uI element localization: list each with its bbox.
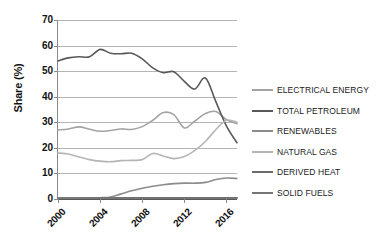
legend-item[interactable]: ELECTRICAL ENERGY xyxy=(252,80,377,101)
legend-label: NATURAL GAS xyxy=(277,147,337,157)
x-tick-label: 2016 xyxy=(210,206,236,232)
legend-label: ELECTRICAL ENERGY xyxy=(277,85,369,95)
legend-color-swatch xyxy=(252,171,273,173)
y-tick-label: 60 xyxy=(42,41,53,51)
y-tick-label: 50 xyxy=(42,66,53,76)
x-tick-mark xyxy=(184,199,185,203)
legend-color-swatch xyxy=(252,89,273,91)
y-tick-label: 0 xyxy=(47,194,53,204)
legend-item[interactable]: SOLID FUELS xyxy=(252,183,377,204)
chart-legend: ELECTRICAL ENERGYTOTAL PETROLEUMRENEWABL… xyxy=(252,80,377,203)
legend-item[interactable]: DERIVED HEAT xyxy=(252,162,377,183)
x-tick-label: 2012 xyxy=(168,206,194,232)
x-tick-mark xyxy=(142,199,143,203)
x-tick-label: 2004 xyxy=(84,206,110,232)
x-tick-label: 2000 xyxy=(42,206,68,232)
x-tick-mark xyxy=(58,199,59,203)
legend-label: SOLID FUELS xyxy=(277,188,333,198)
legend-label: DERIVED HEAT xyxy=(277,167,340,177)
plot-area: 010203040506070 20002004200820122016 xyxy=(58,20,237,199)
legend-item[interactable]: TOTAL PETROLEUM xyxy=(252,101,377,122)
series-line xyxy=(58,111,237,131)
series-line xyxy=(58,178,237,198)
legend-color-swatch xyxy=(252,151,273,153)
legend-item[interactable]: RENEWABLES xyxy=(252,121,377,142)
legend-color-swatch xyxy=(252,130,273,132)
y-tick-label: 70 xyxy=(42,15,53,25)
legend-color-swatch xyxy=(252,192,273,194)
legend-label: TOTAL PETROLEUM xyxy=(277,106,360,116)
x-tick-mark xyxy=(100,199,101,203)
y-tick-label: 20 xyxy=(42,143,53,153)
series-line xyxy=(58,120,237,162)
y-tick-label: 10 xyxy=(42,168,53,178)
y-axis-title: Share (%) xyxy=(12,48,24,128)
legend-label: RENEWABLES xyxy=(277,126,337,136)
x-tick-mark xyxy=(226,199,227,203)
legend-color-swatch xyxy=(252,110,273,112)
y-tick-label: 30 xyxy=(42,117,53,127)
legend-item[interactable]: NATURAL GAS xyxy=(252,142,377,163)
x-tick-label: 2008 xyxy=(126,206,152,232)
series-lines-group xyxy=(58,20,237,199)
y-tick-label: 40 xyxy=(42,92,53,102)
line-chart-figure: Share (%) 010203040506070 20002004200820… xyxy=(0,0,379,240)
